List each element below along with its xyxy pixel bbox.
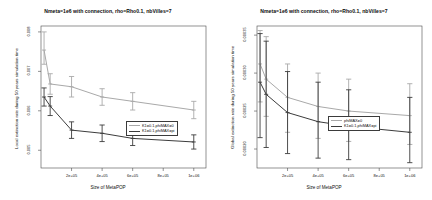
y-axis-label: Global extinction rate during 50 years s… [230,46,235,149]
x-axis-label: Size of MetaPOP [216,185,432,190]
x-axis-label: Size of MetaPOP [0,185,216,190]
legend-item: K1=0.1,phiMAX=pi [331,124,376,128]
y-tick-label: 0.005 [26,141,31,159]
x-tick-label: 8e+05 [158,173,169,178]
y-axis-label: Local extinction rate during 50 years si… [14,48,19,149]
legend-swatch [129,125,140,126]
x-tick-label: 6e+05 [127,173,138,178]
global-extinction-panel: Nmeta=1e6 with connection, rho=Rho0.1, n… [216,0,432,200]
legend-item: K1=0.1,phiMAX=pi [129,129,174,133]
global-extinction-plot [216,0,432,200]
legend-swatch [129,131,140,132]
y-tick-label: 0.00025 [242,102,247,120]
y-tick-label: 0.00030 [242,64,247,82]
local-extinction-panel: Nmeta=1e6 with connection, rho=Rho0.1, n… [0,0,216,200]
legend-label: K1=0.1,phiMAX=pi [344,124,376,128]
y-tick-label: 0.00020 [242,140,247,158]
legend-swatch [331,120,342,121]
x-tick-label: 6e+05 [343,173,354,178]
legend: phiMAX=0K1=0.1,phiMAX=pi [328,116,380,131]
y-tick-label: 0.006 [26,101,31,119]
x-tick-label: 8e+05 [374,173,385,178]
two-panel-figure: Nmeta=1e6 with connection, rho=Rho0.1, n… [0,0,432,200]
y-tick-label: 0.008 [26,22,31,40]
y-tick-label: 0.007 [26,62,31,80]
legend-swatch [331,126,342,127]
y-tick-label: 0.00035 [242,26,247,44]
legend-label: K1=0.1,phiMAX=pi [142,129,174,133]
x-tick-label: 1e+06 [404,173,415,178]
x-tick-label: 4e+05 [96,173,107,178]
legend: K1=0.1,phiMAX=0K1=0.1,phiMAX=pi [126,121,178,136]
x-tick-label: 1e+06 [188,173,199,178]
x-tick-label: 2e+05 [282,173,293,178]
local-extinction-plot [0,0,216,200]
x-tick-label: 2e+05 [66,173,77,178]
x-tick-label: 4e+05 [312,173,323,178]
